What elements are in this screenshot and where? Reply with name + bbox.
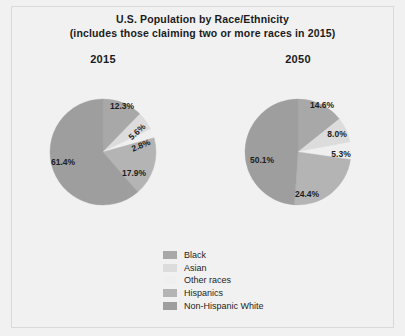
- legend-item-other-races: Other races: [163, 274, 264, 287]
- legend-item-non-hispanic-white: Non-Hispanic White: [163, 299, 264, 312]
- slice-value-label: 5.3%: [331, 149, 351, 159]
- slice-value-label: 50.1%: [250, 155, 275, 165]
- legend-item-label: Asian: [184, 262, 207, 274]
- slice-value-label: 14.6%: [310, 100, 335, 110]
- legend-swatch-icon: [163, 276, 177, 284]
- legend-swatch-icon: [163, 251, 177, 259]
- legend-item-hispanics: Hispanics: [163, 287, 264, 300]
- pie-chart-2015: 12.3%5.6%2.8%17.9%61.4%: [50, 99, 156, 205]
- chart-figure: U.S. Population by Race/Ethnicity (inclu…: [0, 0, 405, 336]
- legend-swatch-icon: [163, 289, 177, 297]
- slice-value-label: 12.3%: [110, 101, 135, 111]
- legend-item-label: Other races: [184, 274, 231, 286]
- slice-value-label: 8.0%: [327, 129, 347, 139]
- legend-item-label: Hispanics: [184, 287, 223, 299]
- slice-value-label: 24.4%: [295, 189, 320, 199]
- legend-swatch-icon: [163, 302, 177, 310]
- legend-item-label: Black: [184, 249, 206, 261]
- legend-item-asian: Asian: [163, 262, 264, 275]
- pie-chart-2050: 14.6%8.0%5.3%24.4%50.1%: [245, 99, 351, 205]
- legend-item-black: Black: [163, 249, 264, 262]
- chart-legend: BlackAsianOther racesHispanicsNon-Hispan…: [163, 249, 264, 312]
- slice-value-label: 17.9%: [122, 168, 147, 178]
- legend-swatch-icon: [163, 264, 177, 272]
- legend-item-label: Non-Hispanic White: [184, 300, 264, 312]
- slice-value-label: 61.4%: [51, 157, 76, 167]
- pie-slice-non-hispanic-white: [245, 99, 298, 205]
